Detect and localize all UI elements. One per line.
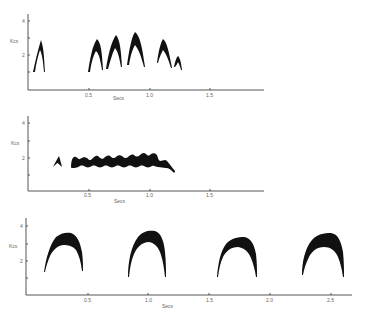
panel-3-xtick-label-2.5: 2.5 bbox=[327, 297, 334, 303]
panel-2-trill-note bbox=[71, 153, 175, 173]
panel-3-ytick-label-2: 2 bbox=[20, 258, 23, 264]
panel-3-ytick-label-4: 4 bbox=[20, 223, 23, 229]
panel-1-syllable-3 bbox=[106, 35, 122, 69]
panel-3-arch-3 bbox=[217, 237, 257, 277]
panel-1-sonogram: 4 2 Kcs 0.5 1.0 1.5 Secs bbox=[10, 14, 264, 101]
panel-1-syllable-5 bbox=[157, 39, 172, 68]
panel-3-arch-4 bbox=[302, 233, 344, 277]
panel-1-xtick-label-1.0: 1.0 bbox=[146, 92, 153, 98]
panel-2-xtick-label-1.5: 1.5 bbox=[206, 192, 213, 198]
panel-3-xlabel: Secs bbox=[162, 303, 174, 309]
panel-1-ylabel: Kcs bbox=[10, 38, 19, 44]
panel-1-syllable-2 bbox=[88, 39, 103, 72]
panel-1-syllable-6 bbox=[174, 56, 182, 70]
panel-1-xtick-label-1.5: 1.5 bbox=[206, 92, 213, 98]
panel-1-xtick-label-0.5: 0.5 bbox=[85, 92, 92, 98]
panel-2-axes bbox=[28, 116, 264, 191]
panel-3-arch-2 bbox=[128, 231, 166, 277]
panel-3-xtick-label-0.5: 0.5 bbox=[84, 297, 91, 303]
panel-1-syllable-4 bbox=[127, 32, 145, 67]
panel-2-ylabel: Kcs bbox=[11, 140, 20, 146]
panel-3-ylabel: Kcs bbox=[9, 243, 18, 249]
panel-3-axes bbox=[26, 218, 352, 295]
panel-2-xtick-label-0.5: 0.5 bbox=[84, 192, 91, 198]
panel-1-syllable-1 bbox=[33, 40, 45, 72]
panel-3-sonogram: 4 2 Kcs 0.5 1.0 1.5 2.0 2.5 Secs bbox=[9, 218, 352, 309]
panel-1-axes bbox=[28, 14, 264, 90]
panel-2-chevron-note bbox=[53, 156, 62, 167]
panel-2-ytick-label-2: 2 bbox=[22, 155, 25, 161]
panel-3-xtick-label-2.0: 2.0 bbox=[266, 297, 273, 303]
panel-1-xlabel: Secs bbox=[113, 95, 125, 101]
panel-3-arch-1 bbox=[44, 233, 83, 272]
panel-3-xtick-label-1.0: 1.0 bbox=[145, 297, 152, 303]
panel-2-xlabel: Secs bbox=[114, 198, 126, 204]
panel-1-ytick-label-4: 4 bbox=[22, 18, 25, 24]
panel-2-sonogram: 4 2 Kcs 0.5 1.0 1.5 Secs bbox=[11, 116, 264, 204]
sonogram-figure: 4 2 Kcs 0.5 1.0 1.5 Secs 4 2 Kcs 0.5 1.0… bbox=[0, 0, 367, 318]
panel-2-ytick-label-4: 4 bbox=[22, 120, 25, 126]
panel-3-xtick-label-1.5: 1.5 bbox=[206, 297, 213, 303]
panel-2-xtick-label-1.0: 1.0 bbox=[146, 192, 153, 198]
panel-1-ytick-label-2: 2 bbox=[22, 52, 25, 58]
